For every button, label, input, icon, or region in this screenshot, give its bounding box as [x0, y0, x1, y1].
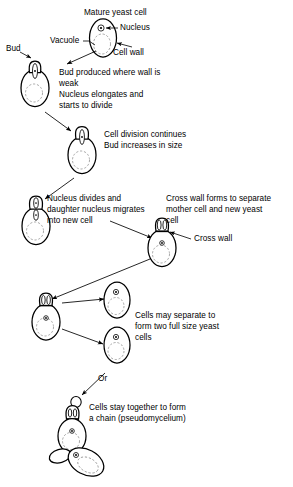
- caption-step2-line1: Bud produced where wall is: [59, 68, 160, 79]
- arrow-to-separate-cell-upper: [62, 299, 104, 303]
- caption-step6-line3: cells: [135, 333, 152, 344]
- cell-wall-leader-line: [117, 43, 132, 47]
- caption-step4-line3: into new cell: [47, 216, 93, 227]
- label-nucleus: Nucleus: [120, 23, 150, 34]
- arrow-stage5-to-stage6: [52, 259, 150, 299]
- cell-separating-mother-cell: [32, 293, 60, 340]
- cell-separate-cell-lower: [104, 327, 130, 363]
- caption-step7-line2: a chain (pseudomycelium): [89, 414, 186, 425]
- cell-separate-cell-upper: [104, 282, 130, 318]
- nucleus-shape: [157, 220, 161, 230]
- arrow-to-separate-cell-lower: [62, 329, 103, 344]
- caption-step2-line4: starts to divide: [59, 101, 113, 112]
- caption-step4-line1: Nucleus divides and: [47, 194, 121, 205]
- cell-budding-cell-small-bud: [21, 61, 49, 107]
- label-cell-wall: Cell wall: [113, 48, 144, 59]
- label-or: Or: [98, 374, 107, 385]
- caption-step2-line3: Nucleus elongates and: [59, 90, 143, 101]
- arrow-stage4-to-stage5: [110, 221, 152, 238]
- caption-step6-line1: Cells may separate to: [135, 311, 215, 322]
- label-vacuole: Vacuole: [50, 36, 79, 47]
- caption-step4-line2: daughter nucleus migrates: [47, 205, 145, 216]
- caption-step6-line2: form two full size yeast: [135, 322, 219, 333]
- arrow-stage2-to-stage3: [45, 112, 71, 131]
- bud-leader-line: [20, 52, 31, 58]
- arrow-stage1-to-stage2: [67, 51, 96, 64]
- caption-step3-line1: Cell division continues: [104, 130, 186, 141]
- label-bud: Bud: [6, 44, 21, 55]
- caption-step3-line2: Bud increases in size: [104, 141, 182, 152]
- caption-step2-line2: weak: [59, 79, 78, 90]
- caption-step5-line1: Cross wall forms to separate: [166, 194, 271, 205]
- caption-step7-line1: Cells stay together to form: [89, 403, 186, 414]
- cell-budding-cell-two-nuclei: [22, 196, 50, 245]
- label-mature-yeast-cell: Mature yeast cell: [84, 8, 147, 19]
- cell-budding-cell-growing-bud: [68, 127, 96, 174]
- caption-step5-line3: cell: [166, 216, 179, 227]
- caption-step5-line2: mother cell and new yeast: [166, 205, 262, 216]
- yeast-budding-diagram: Mature yeast cell Nucleus Vacuole Cell w…: [0, 0, 293, 487]
- label-cross-wall: Cross wall: [194, 234, 232, 245]
